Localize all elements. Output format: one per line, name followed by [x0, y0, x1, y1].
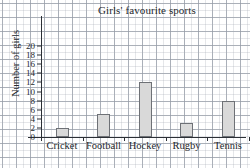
bar-cricket: [56, 128, 69, 137]
bar-tennis: [222, 101, 235, 137]
bar-rugby: [180, 123, 193, 137]
x-tick-label: Hockey: [129, 140, 162, 151]
x-axis-tick-labels: CricketFootballHockeyRugbyTennis: [0, 140, 250, 160]
bar-hockey: [139, 82, 152, 137]
x-tick-label: Tennis: [214, 140, 242, 151]
bar-chart: Girls' favourite sports Number of girls …: [0, 0, 250, 168]
x-tick-label: Football: [86, 140, 121, 151]
x-tick-label: Rugby: [172, 140, 200, 151]
x-tick-label: Cricket: [47, 140, 78, 151]
bar-football: [97, 114, 110, 137]
